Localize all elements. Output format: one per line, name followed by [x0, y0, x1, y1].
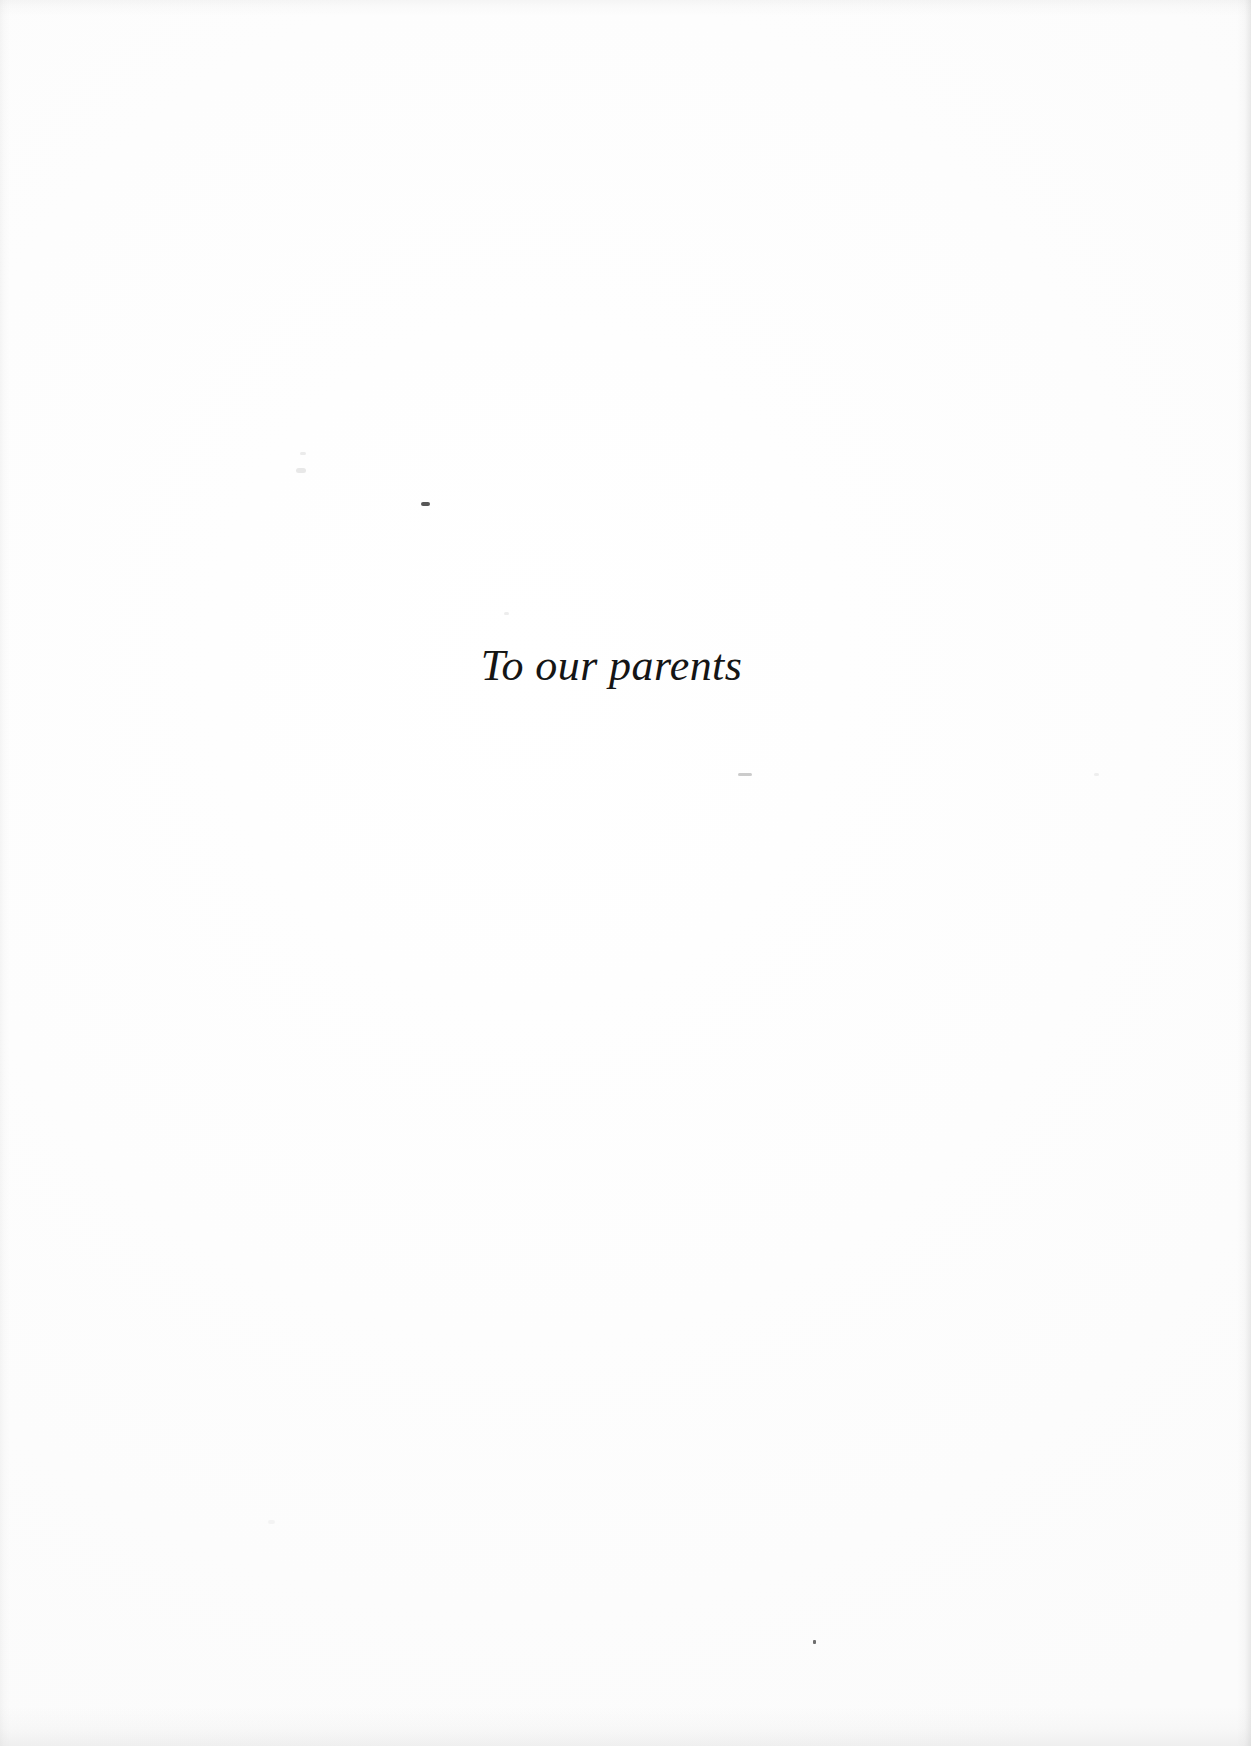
- scan-edge-shade-left: [0, 0, 10, 1746]
- scan-speck: [300, 452, 306, 455]
- scan-speck: [813, 1640, 816, 1644]
- scan-speck: [504, 612, 509, 615]
- scan-edge-noise-top: [0, 0, 1251, 16]
- scan-speck: [421, 502, 430, 506]
- dedication-page: To our parents: [0, 0, 1251, 1746]
- scan-edge-noise-bottom: [0, 1706, 1251, 1746]
- dedication-line: To our parents: [0, 640, 1251, 692]
- scan-speck: [268, 1520, 275, 1524]
- scan-edge-shade-right: [1237, 0, 1251, 1746]
- dedication-text: To our parents: [481, 640, 743, 692]
- scan-speck: [1094, 773, 1099, 776]
- paper-tone-overlay: [0, 0, 1251, 1746]
- scan-speck: [296, 468, 306, 473]
- scan-speck: [738, 773, 752, 776]
